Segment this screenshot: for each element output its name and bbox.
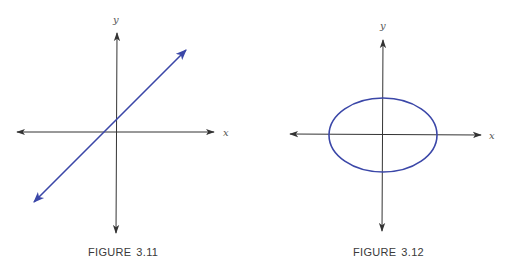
page: x y x y FIGURE3.11 FIGURE3.12 [0,0,506,266]
x-axis-label: x [223,127,229,138]
y-axis [116,33,117,233]
caption-figure-3-11: FIGURE3.11 [88,246,158,258]
y-axis-label: y [112,14,119,25]
y-axis-label: y [379,20,386,31]
caption-label: FIGURE [353,246,396,258]
caption-number: 3.11 [136,246,158,258]
figures-canvas: x y x y [0,0,506,266]
x-axis-label: x [489,130,495,141]
line-curve [34,50,186,202]
x-axis [290,134,481,135]
figure-3-12: x y [290,20,495,231]
caption-number: 3.12 [401,246,424,258]
caption-figure-3-12: FIGURE3.12 [353,246,424,258]
caption-label: FIGURE [88,246,131,258]
y-axis [382,40,383,231]
figure-3-11: x y [17,14,229,233]
